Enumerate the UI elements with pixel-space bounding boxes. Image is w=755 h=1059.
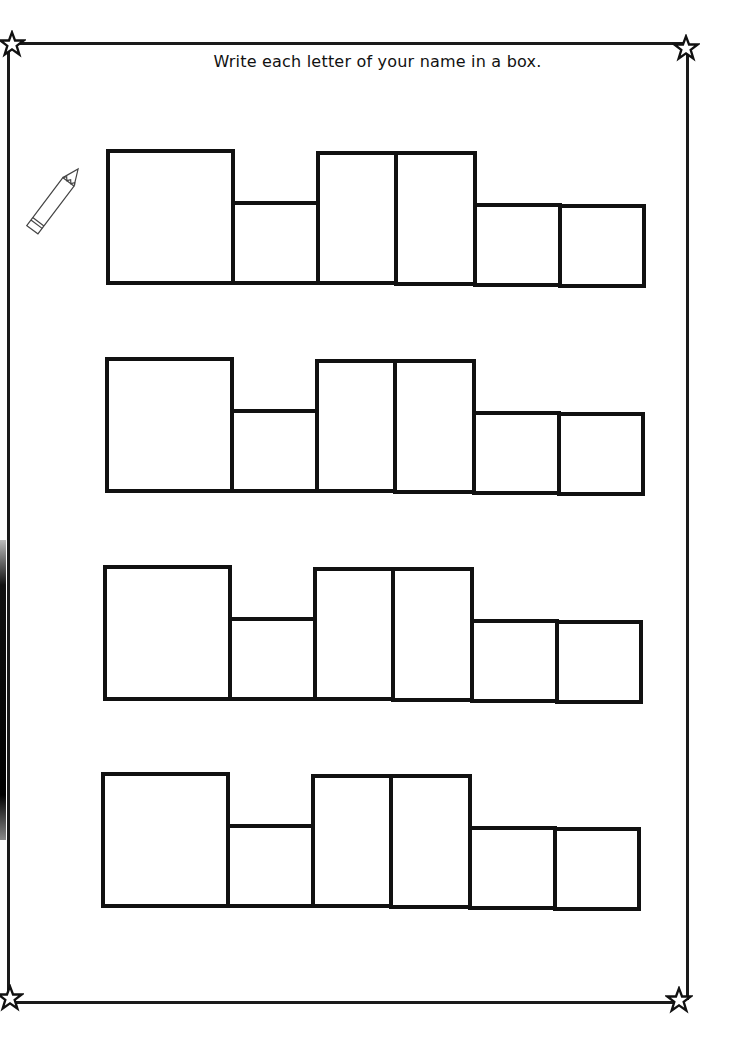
letter-box[interactable] bbox=[468, 826, 557, 910]
name-row-2 bbox=[0, 357, 755, 507]
letter-box[interactable] bbox=[391, 567, 474, 702]
name-row-4 bbox=[0, 772, 755, 922]
letter-box[interactable] bbox=[231, 201, 320, 285]
letter-box[interactable] bbox=[316, 151, 398, 285]
letter-box[interactable] bbox=[101, 772, 230, 908]
letter-box[interactable] bbox=[228, 617, 317, 701]
letter-box[interactable] bbox=[473, 203, 562, 287]
letter-box[interactable] bbox=[105, 357, 234, 493]
letter-box[interactable] bbox=[389, 774, 472, 909]
instruction-text: Write each letter of your name in a box. bbox=[0, 52, 755, 71]
letter-box[interactable] bbox=[106, 149, 235, 285]
letter-box[interactable] bbox=[226, 824, 315, 908]
star-outline-icon bbox=[665, 986, 693, 1014]
letter-box[interactable] bbox=[230, 409, 319, 493]
letter-box[interactable] bbox=[558, 204, 646, 288]
letter-box[interactable] bbox=[393, 359, 476, 494]
letter-box[interactable] bbox=[103, 565, 232, 701]
star-outline-icon bbox=[0, 984, 24, 1012]
frame-top-border bbox=[12, 42, 688, 45]
letter-box[interactable] bbox=[394, 151, 477, 286]
letter-box[interactable] bbox=[313, 567, 395, 701]
letter-box[interactable] bbox=[315, 359, 397, 493]
letter-box[interactable] bbox=[470, 619, 559, 703]
letter-box[interactable] bbox=[553, 827, 641, 911]
letter-box[interactable] bbox=[557, 412, 645, 496]
letter-box[interactable] bbox=[311, 774, 393, 908]
frame-bottom-border bbox=[12, 1001, 682, 1004]
name-row-3 bbox=[0, 565, 755, 715]
letter-box[interactable] bbox=[555, 620, 643, 704]
letter-box[interactable] bbox=[472, 411, 561, 495]
name-row-1 bbox=[0, 149, 755, 299]
